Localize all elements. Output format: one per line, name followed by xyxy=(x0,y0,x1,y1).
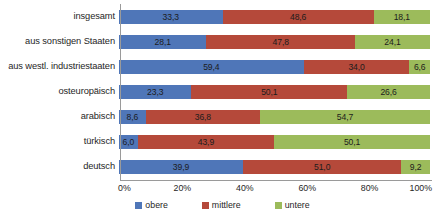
legend-item[interactable]: untere xyxy=(275,200,310,210)
bar-value-label: 23,3 xyxy=(147,87,163,97)
bar-segment-mittlere: 43,9 xyxy=(138,135,275,149)
legend-label: mittlere xyxy=(212,200,241,210)
bar-value-label: 51,0 xyxy=(314,162,330,172)
bar-segment-obere: 28,1 xyxy=(119,35,206,49)
x-axis-tick: 100% xyxy=(410,182,433,194)
bar-segment-mittlere: 36,8 xyxy=(146,110,260,124)
bar-segment-mittlere: 50,1 xyxy=(191,85,347,99)
bar-value-label: 48,6 xyxy=(290,12,306,22)
bar-track: 33,348,618,1 xyxy=(119,10,430,24)
stacked-bar-chart: insgesamt33,348,618,1aus sonstigen Staat… xyxy=(0,0,445,215)
bar-track: 28,147,824,1 xyxy=(119,35,430,49)
chart-row: osteuropäisch23,350,126,6 xyxy=(0,79,445,104)
bar-value-label: 24,1 xyxy=(384,37,400,47)
x-axis-line xyxy=(120,180,432,181)
category-label: deutsch xyxy=(0,161,119,172)
bar-value-label: 54,7 xyxy=(337,112,353,122)
bar-track: 8,636,854,7 xyxy=(119,110,430,124)
bar-value-label: 18,1 xyxy=(394,12,410,22)
bar-segment-untere: 26,6 xyxy=(347,85,430,99)
legend-swatch-icon xyxy=(275,202,282,209)
category-label: arabisch xyxy=(0,111,119,122)
bar-segment-obere: 33,3 xyxy=(119,10,223,24)
bar-value-label: 50,1 xyxy=(344,137,360,147)
legend-swatch-icon xyxy=(202,202,209,209)
x-axis-tick: 20% xyxy=(174,182,192,194)
bar-segment-untere: 50,1 xyxy=(274,135,430,149)
bar-segment-untere: 9,2 xyxy=(401,160,430,174)
bar-segment-untere: 24,1 xyxy=(355,35,430,49)
x-axis-tick: 60% xyxy=(298,182,316,194)
bar-value-label: 50,1 xyxy=(261,87,277,97)
chart-row: aus westl. industriestaaten59,434,06,6 xyxy=(0,54,445,79)
legend-item[interactable]: obere xyxy=(135,200,168,210)
legend-item[interactable]: mittlere xyxy=(202,200,241,210)
bar-value-label: 26,6 xyxy=(380,87,396,97)
category-label: osteuropäisch xyxy=(0,86,119,97)
x-axis-tick-labels: 0%20%40%60%80%100% xyxy=(120,182,432,195)
x-axis-tick: 80% xyxy=(361,182,379,194)
category-label: insgesamt xyxy=(0,11,119,22)
bar-segment-untere: 6,6 xyxy=(409,60,430,74)
chart-legend: oberemittlereuntere xyxy=(0,198,445,212)
chart-row: türkisch6,043,950,1 xyxy=(0,129,445,154)
category-label: aus westl. industriestaaten xyxy=(0,61,119,72)
bar-segment-mittlere: 47,8 xyxy=(206,35,355,49)
bar-track: 59,434,06,6 xyxy=(119,60,430,74)
bar-segment-untere: 54,7 xyxy=(260,110,430,124)
legend-label: obere xyxy=(145,200,168,210)
bar-value-label: 9,2 xyxy=(410,162,422,172)
bar-segment-untere: 18,1 xyxy=(374,10,430,24)
bar-value-label: 43,9 xyxy=(198,137,214,147)
bar-track: 23,350,126,6 xyxy=(119,85,430,99)
bar-segment-mittlere: 51,0 xyxy=(243,160,401,174)
chart-row: insgesamt33,348,618,1 xyxy=(0,4,445,29)
bar-segment-obere: 39,9 xyxy=(119,160,243,174)
x-axis-tick: 0% xyxy=(118,182,131,194)
bar-track: 6,043,950,1 xyxy=(119,135,430,149)
bar-segment-obere: 6,0 xyxy=(119,135,138,149)
x-axis-tick: 40% xyxy=(236,182,254,194)
bar-value-label: 34,0 xyxy=(348,62,364,72)
y-axis-line xyxy=(120,4,121,180)
bar-value-label: 6,0 xyxy=(123,137,135,147)
bar-value-label: 36,8 xyxy=(195,112,211,122)
chart-row: arabisch8,636,854,7 xyxy=(0,104,445,129)
legend-swatch-icon xyxy=(135,202,142,209)
bar-value-label: 33,3 xyxy=(163,12,179,22)
bar-value-label: 8,6 xyxy=(127,112,139,122)
bar-value-label: 39,9 xyxy=(173,162,189,172)
plot-area: insgesamt33,348,618,1aus sonstigen Staat… xyxy=(0,4,445,180)
bar-value-label: 59,4 xyxy=(203,62,219,72)
bar-value-label: 47,8 xyxy=(273,37,289,47)
category-label: aus sonstigen Staaten xyxy=(0,36,119,47)
bar-segment-mittlere: 34,0 xyxy=(304,60,410,74)
chart-row: aus sonstigen Staaten28,147,824,1 xyxy=(0,29,445,54)
bar-segment-obere: 23,3 xyxy=(119,85,191,99)
bar-segment-obere: 8,6 xyxy=(119,110,146,124)
bar-value-label: 6,6 xyxy=(414,62,426,72)
bar-track: 39,951,09,2 xyxy=(119,160,430,174)
bar-segment-mittlere: 48,6 xyxy=(223,10,374,24)
category-label: türkisch xyxy=(0,136,119,147)
chart-row: deutsch39,951,09,2 xyxy=(0,154,445,179)
bar-value-label: 28,1 xyxy=(155,37,171,47)
bar-segment-obere: 59,4 xyxy=(119,60,304,74)
legend-label: untere xyxy=(285,200,310,210)
